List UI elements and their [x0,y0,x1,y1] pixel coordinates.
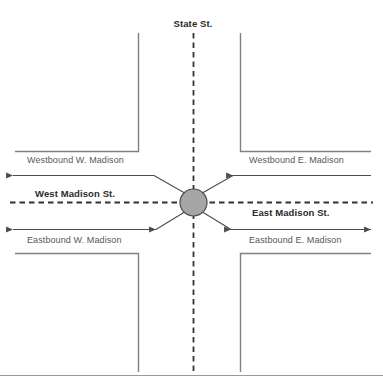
label-eastbound-e-madison: Eastbound E. Madison [249,236,342,245]
curb-southeast [241,254,372,373]
label-west-madison-street: West Madison St. [35,189,115,199]
connector-node-to-eastbound-east [203,212,231,229]
connector-node-to-eastbound-west [156,212,184,229]
connector-node-to-westbound-east [203,176,233,193]
label-eastbound-w-madison: Eastbound W. Madison [27,236,122,245]
curb-southwest [15,254,139,373]
label-state-street: State St. [174,19,213,29]
label-westbound-w-madison: Westbound W. Madison [27,156,124,165]
intersection-node [180,189,207,216]
connector-node-to-westbound-west [154,176,184,193]
curb-northeast [241,33,372,152]
intersection-diagram: State St. Westbound W. Madison Westbound… [0,0,383,388]
curb-northwest [15,33,139,152]
label-east-madison-street: East Madison St. [252,208,330,218]
label-westbound-e-madison: Westbound E. Madison [249,156,344,165]
